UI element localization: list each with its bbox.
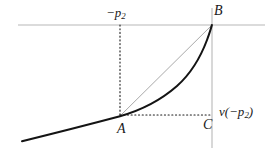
label-neg-p2: −p2 — [106, 6, 126, 20]
label-value-open: v(−p — [219, 104, 244, 119]
label-point-b-text: B — [214, 3, 223, 18]
chord-line-ab — [120, 25, 212, 116]
label-point-c-text: C — [203, 117, 212, 132]
label-point-a-text: A — [117, 121, 126, 136]
figure-graphics — [0, 0, 273, 151]
label-point-a: A — [117, 122, 126, 136]
figure-canvas: −p2 B A C v(−p2) — [0, 0, 273, 151]
label-neg-p2-text: −p — [106, 5, 121, 20]
label-value-at-neg-p2: v(−p2) — [219, 105, 253, 119]
label-point-c: C — [203, 118, 212, 132]
label-point-b: B — [214, 4, 223, 18]
label-neg-p2-subscript: 2 — [121, 11, 125, 21]
label-value-close: ) — [249, 104, 253, 119]
